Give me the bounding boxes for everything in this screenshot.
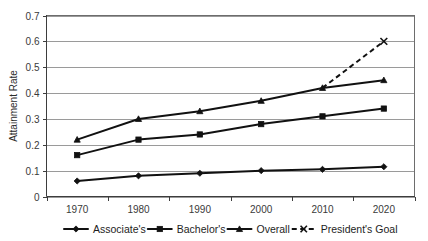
y-tick-label-0.7: 0.7 [26,11,40,22]
x-tick-label-2010: 2010 [311,204,334,215]
marker-square [75,152,80,157]
chart-canvas: 00.10.20.30.40.50.60.7 19701980199020002… [0,0,428,241]
marker-square [136,137,141,142]
y-tick-label-0.5: 0.5 [26,62,40,73]
chart-background [0,0,428,241]
y-tick-label-0.1: 0.1 [26,166,40,177]
marker-square [259,121,264,126]
y-tick-label-0.6: 0.6 [26,36,40,47]
legend-label: Bachelor's [177,223,226,235]
x-tick-label-1990: 1990 [189,204,212,215]
marker-square [157,226,162,231]
legend-label: Overall [256,223,289,235]
x-tick-label-2020: 2020 [373,204,396,215]
x-tick-label-2000: 2000 [250,204,273,215]
attainment-rate-line-chart: 00.10.20.30.40.50.60.7 19701980199020002… [0,0,428,241]
y-tick-label-0.2: 0.2 [26,140,40,151]
y-tick-label-0.3: 0.3 [26,114,40,125]
x-tick-label-1980: 1980 [127,204,150,215]
y-tick-label-0: 0 [34,192,40,203]
legend-label: Associate's [93,223,146,235]
marker-square [320,114,325,119]
legend-label: President's Goal [321,223,398,235]
y-axis-title: Attainment Rate [8,70,19,142]
x-tick-label-1970: 1970 [66,204,89,215]
y-tick-label-0.4: 0.4 [26,88,40,99]
marker-square [381,106,386,111]
marker-square [197,132,202,137]
